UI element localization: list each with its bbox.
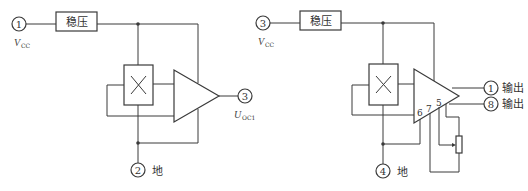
- pin-3-output: 3 U OC1: [234, 89, 255, 121]
- svg-text:U: U: [234, 109, 242, 120]
- wiper-arrow-icon: [452, 143, 456, 147]
- svg-text:地: 地: [152, 165, 163, 178]
- amplifier: [174, 70, 219, 122]
- potentiometer: [456, 136, 462, 153]
- svg-text:输出: 输出: [502, 97, 524, 111]
- svg-text:8: 8: [488, 99, 494, 110]
- svg-text:3: 3: [242, 91, 248, 102]
- svg-text:OC1: OC1: [242, 114, 255, 121]
- svg-text:稳压: 稳压: [310, 14, 332, 28]
- amplifier: 6 7 5: [414, 69, 459, 123]
- svg-text:稳压: 稳压: [66, 15, 88, 29]
- circuit-diagram: 1 V CC 稳压: [0, 0, 528, 191]
- svg-text:7: 7: [426, 104, 432, 114]
- svg-text:5: 5: [436, 98, 442, 108]
- svg-text:地: 地: [397, 166, 408, 179]
- svg-text:3: 3: [260, 18, 266, 29]
- svg-text:输出: 输出: [502, 81, 524, 95]
- junction-dot: [381, 142, 385, 146]
- svg-text:2: 2: [135, 165, 141, 176]
- left-circuit: 1 V CC 稳压: [12, 12, 255, 178]
- pin-2-ground: 2 地: [131, 163, 163, 178]
- pin-1-output: 1 输出: [484, 81, 524, 95]
- right-circuit: 3 V CC 稳压 6 7 5 1: [256, 11, 524, 179]
- svg-text:CC: CC: [21, 42, 31, 49]
- pin-4-ground: 4 地: [376, 164, 408, 179]
- regulator-box: 稳压: [300, 11, 341, 30]
- svg-text:CC: CC: [265, 41, 275, 48]
- pin-3-vcc: 3 V CC: [256, 16, 275, 48]
- junction-dot: [136, 141, 140, 145]
- svg-text:1: 1: [488, 83, 494, 94]
- multiplier-box: [124, 65, 153, 105]
- svg-text:4: 4: [380, 166, 386, 177]
- multiplier-box: [369, 64, 398, 105]
- pin-1-vcc: 1 V CC: [12, 17, 31, 49]
- pin-8-output: 8 输出: [484, 97, 524, 111]
- svg-text:1: 1: [16, 19, 22, 30]
- regulator-box: 稳压: [56, 12, 97, 31]
- svg-text:6: 6: [417, 108, 423, 118]
